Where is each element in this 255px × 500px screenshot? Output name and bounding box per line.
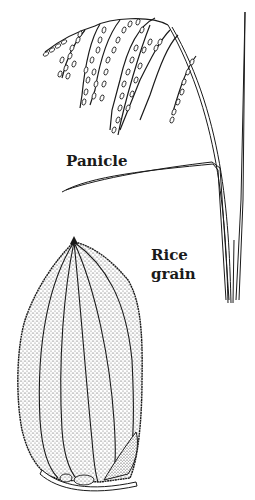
spikelets	[43, 18, 195, 133]
label-panicle: Panicle	[66, 152, 128, 171]
label-rice-grain: Rice grain	[151, 246, 196, 284]
label-rice-grain-line1: Rice	[151, 246, 196, 265]
rice-grain	[18, 236, 142, 491]
label-rice-grain-line2: grain	[151, 265, 196, 284]
leaf-blade	[236, 12, 245, 300]
illustration-svg	[0, 0, 255, 500]
rice-illustration: Panicle Rice grain	[0, 0, 255, 500]
